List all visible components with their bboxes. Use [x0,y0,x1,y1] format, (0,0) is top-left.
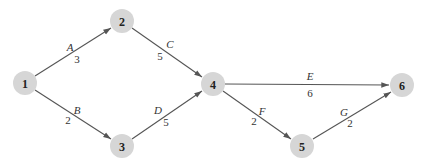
edge-g-5-to-6 [313,92,391,139]
duration-label-a: 3 [74,53,80,65]
duration-label-c: 5 [157,50,163,62]
duration-label-d: 5 [163,116,169,128]
activity-label-a: A [66,41,74,53]
node-5-label: 5 [299,140,305,154]
nodes: 1 2 3 4 5 6 [13,9,414,158]
activity-label-f: F [258,105,266,117]
activity-label-e: E [306,70,314,82]
node-6-label: 6 [399,79,405,93]
node-3: 3 [110,134,134,158]
node-5: 5 [290,134,314,158]
node-3-label: 3 [119,140,125,154]
network-diagram: A 3 B 2 C 5 D 5 E 6 F 2 G 2 1 2 3 4 [0,0,425,161]
duration-label-b: 2 [65,114,71,126]
activity-label-d: D [153,104,162,116]
node-1: 1 [13,71,37,95]
activity-label-b: B [74,104,81,116]
node-4-label: 4 [210,78,216,92]
duration-label-g: 2 [347,117,353,129]
activity-label-c: C [166,38,174,50]
edge-c-2-to-4 [132,28,202,77]
duration-label-f: 2 [251,115,257,127]
node-2: 2 [110,9,134,33]
node-2-label: 2 [119,15,125,29]
node-1-label: 1 [22,77,28,91]
edge-f-4-to-5 [223,91,291,139]
node-6: 6 [390,73,414,97]
node-4: 4 [201,72,225,96]
edge-d-3-to-4 [132,91,202,139]
edge-e-4-to-6 [225,84,389,85]
duration-label-e: 6 [307,87,313,99]
